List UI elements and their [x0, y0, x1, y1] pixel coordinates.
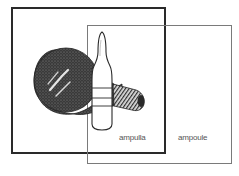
lightbulb-icon: [34, 48, 145, 115]
ampoule-label: ampoule: [178, 133, 207, 142]
ampulla-label: ampulla: [119, 133, 146, 142]
illustration-layer: [0, 0, 239, 176]
ampoule-vial-icon: [92, 32, 112, 130]
